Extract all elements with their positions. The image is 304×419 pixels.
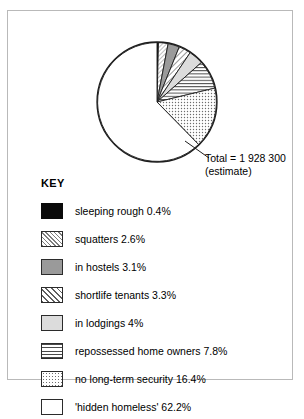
legend-label: squatters 2.6% — [75, 233, 145, 245]
legend-item-in-lodgings: in lodgings 4% — [41, 309, 291, 337]
legend-label: 'hidden homeless' 62.2% — [75, 401, 191, 413]
legend-label: shortlife tenants 3.3% — [75, 289, 176, 301]
legend-label: no long-term security 16.4% — [75, 373, 206, 385]
chart-frame: Total = 1 928 300 (estimate) KEY sleepin… — [7, 10, 293, 380]
legend-item-repossessed-home-owners: repossessed home owners 7.8% — [41, 337, 291, 365]
legend-label: in lodgings 4% — [75, 317, 143, 329]
legend-item-squatters: squatters 2.6% — [41, 225, 291, 253]
legend-label: repossessed home owners 7.8% — [75, 345, 227, 357]
legend-swatch-solid-gray — [41, 259, 63, 275]
legend-item-shortlife-tenants: shortlife tenants 3.3% — [41, 281, 291, 309]
legend-swatch-solid-black — [41, 203, 63, 219]
legend-swatch-diagonal-hatch-bold — [41, 287, 63, 303]
legend-item-in-hostels: in hostels 3.1% — [41, 253, 291, 281]
legend: sleeping rough 0.4%squatters 2.6%in host… — [41, 197, 291, 419]
total-estimate: (estimate) — [205, 165, 286, 178]
legend-label: in hostels 3.1% — [75, 261, 146, 273]
total-value: Total = 1 928 300 — [205, 152, 286, 165]
total-annotation: Total = 1 928 300 (estimate) — [205, 152, 286, 177]
legend-swatch-horizontal-lines — [41, 343, 63, 359]
legend-swatch-diagonal-hatch-fine — [41, 231, 63, 247]
legend-swatch-dots — [41, 371, 63, 387]
legend-label: sleeping rough 0.4% — [75, 205, 171, 217]
legend-item-sleeping-rough: sleeping rough 0.4% — [41, 197, 291, 225]
legend-title: KEY — [41, 177, 65, 189]
legend-item-hidden-homeless: 'hidden homeless' 62.2% — [41, 393, 291, 419]
legend-swatch-solid-light-gray — [41, 315, 63, 331]
legend-item-no-long-term-security: no long-term security 16.4% — [41, 365, 291, 393]
legend-swatch-white — [41, 399, 63, 415]
